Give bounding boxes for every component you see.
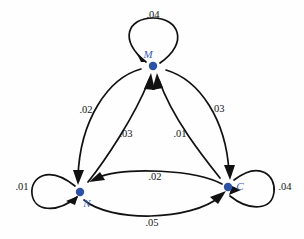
graph-canvas: M N C .04 .01 .04 .02 .03 .03 .01 .02 .0…: [0, 0, 304, 239]
markov-chain-diagram: M N C .04 .01 .04 .02 .03 .03 .01 .02 .0…: [0, 0, 304, 239]
edge-n-to-c: [84, 191, 226, 216]
node-n-label: N: [82, 197, 91, 209]
edge-c-to-m-path: [159, 80, 220, 178]
edge-m-to-n-arrowhead: [73, 170, 84, 185]
edge-n-to-c-path: [84, 196, 221, 216]
node-c-dot[interactable]: [224, 183, 232, 191]
edge-m-to-c: [166, 70, 235, 180]
edge-label-c-self: .04: [278, 181, 292, 192]
edge-m-self-path: [129, 18, 178, 63]
node-c-label: C: [236, 180, 244, 192]
edge-label-m-self: .04: [146, 9, 160, 20]
edge-label-n-self: .01: [15, 181, 28, 192]
edge-label-c-to-n: .02: [148, 171, 161, 182]
edge-n-self-path: [32, 175, 77, 209]
node-m-label: M: [142, 48, 153, 60]
edge-label-m-to-c: .03: [211, 103, 224, 114]
edge-c-to-m-arrowhead: [152, 73, 163, 90]
edge-m-to-c-path: [166, 70, 229, 172]
edge-label-n-to-c: .05: [145, 217, 158, 228]
edge-n-self: [32, 175, 78, 209]
edge-m-to-c-arrowhead: [224, 165, 235, 180]
edge-m-to-n: [73, 69, 141, 185]
node-n-dot[interactable]: [76, 188, 84, 196]
edge-label-c-to-m: .01: [173, 128, 186, 139]
edge-c-to-m: [152, 73, 220, 178]
node-m-dot[interactable]: [149, 62, 157, 70]
edge-m-self: [129, 18, 178, 63]
edge-label-n-to-m: .03: [119, 128, 132, 139]
edge-m-to-n-path: [78, 69, 141, 177]
edge-label-m-to-n: .02: [79, 104, 92, 115]
